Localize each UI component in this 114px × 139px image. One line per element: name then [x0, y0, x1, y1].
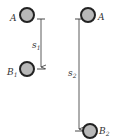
- left-ball-b-label: B1: [6, 67, 17, 78]
- falling-balls-diagram: A s1 B1 A s2 B2: [0, 0, 114, 139]
- left-ball-b1: [20, 62, 34, 76]
- left-distance-label: s1: [32, 40, 40, 51]
- right-ball-b2: [83, 124, 97, 138]
- right-ball-b-label: B2: [98, 126, 110, 137]
- right-ball-a: [81, 8, 95, 22]
- right-ball-a-label: A: [97, 12, 105, 22]
- right-distance-label: s2: [68, 68, 77, 79]
- left-scenario: A s1 B1: [6, 8, 45, 78]
- left-ball-a: [20, 8, 34, 22]
- left-ball-a-label: A: [9, 13, 17, 23]
- right-scenario: A s2 B2: [68, 8, 110, 138]
